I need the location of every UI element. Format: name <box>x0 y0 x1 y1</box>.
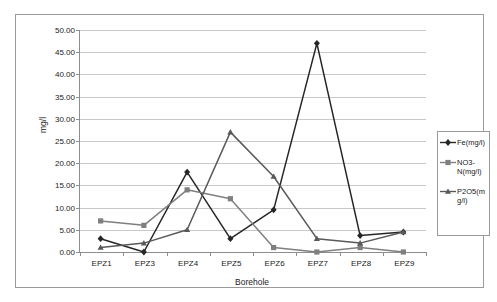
gridline <box>80 74 426 75</box>
y-axis-tick <box>76 230 80 231</box>
x-axis-tick-label: EPZ3 <box>135 259 155 268</box>
gridline <box>80 97 426 98</box>
legend-item[interactable]: Fe(mg/l) <box>440 138 487 147</box>
y-axis-tick <box>76 185 80 186</box>
x-axis-tick <box>340 252 341 256</box>
y-axis-tick <box>76 74 80 75</box>
gridline <box>80 30 426 31</box>
x-axis-tick <box>296 252 297 256</box>
y-axis-tick-label: 30.00 <box>55 114 75 123</box>
y-axis-tick-label: 45.00 <box>55 48 75 57</box>
chart-legend: Fe(mg/l)NO3-N(mg/l)P2O5(mg/l) <box>437 131 490 236</box>
legend-item-label: P2O5(mg/l) <box>457 187 487 205</box>
triangle-marker-icon <box>440 187 456 196</box>
y-axis-tick-label: 15.00 <box>55 181 75 190</box>
chart-frame: mg/l 0.005.0010.0015.0020.0025.0030.0035… <box>15 14 484 288</box>
y-axis-tick-label: 20.00 <box>55 159 75 168</box>
x-axis-tick <box>80 252 81 256</box>
plot-grid: 0.005.0010.0015.0020.0025.0030.0035.0040… <box>79 30 426 253</box>
y-axis-tick-label: 5.00 <box>59 225 75 234</box>
gridline <box>80 119 426 120</box>
x-axis-tick <box>210 252 211 256</box>
x-axis-tick <box>426 252 427 256</box>
x-axis-title: Borehole <box>79 277 425 287</box>
x-axis-tick-label: EPZ6 <box>265 259 285 268</box>
y-axis-tick <box>76 163 80 164</box>
x-axis-tick-label: EPZ8 <box>351 259 371 268</box>
gridline <box>80 163 426 164</box>
x-axis-tick <box>123 252 124 256</box>
y-axis-tick <box>76 97 80 98</box>
y-axis-tick <box>76 52 80 53</box>
y-axis-tick-label: 35.00 <box>55 92 75 101</box>
gridline <box>80 52 426 53</box>
x-axis-tick <box>253 252 254 256</box>
x-axis-tick-label: EPZ9 <box>394 259 414 268</box>
plot-area: 0.005.0010.0015.0020.0025.0030.0035.0040… <box>79 30 425 267</box>
gridline <box>80 230 426 231</box>
legend-item-label: NO3-N(mg/l) <box>457 158 487 176</box>
y-axis-tick <box>76 30 80 31</box>
legend-item-label: Fe(mg/l) <box>457 138 485 147</box>
y-axis-tick <box>76 141 80 142</box>
y-axis-tick <box>76 208 80 209</box>
y-axis-tick-label: 50.00 <box>55 26 75 35</box>
x-axis-tick-label: EPZ7 <box>308 259 328 268</box>
y-axis-title: mg/l <box>38 117 48 133</box>
square-marker-icon <box>440 158 456 167</box>
gridline <box>80 208 426 209</box>
legend-item[interactable]: NO3-N(mg/l) <box>440 158 487 176</box>
y-axis-tick-label: 40.00 <box>55 70 75 79</box>
gridline <box>80 141 426 142</box>
x-axis-tick <box>167 252 168 256</box>
diamond-marker-icon <box>440 138 456 147</box>
x-axis-tick-label: EPZ1 <box>92 259 112 268</box>
y-axis-tick-label: 0.00 <box>59 248 75 257</box>
x-axis-tick <box>383 252 384 256</box>
gridline <box>80 185 426 186</box>
x-axis-tick-label: EPZ4 <box>178 259 198 268</box>
x-axis-tick-label: EPZ5 <box>221 259 241 268</box>
y-axis-tick <box>76 119 80 120</box>
legend-item[interactable]: P2O5(mg/l) <box>440 187 487 205</box>
y-axis-tick-label: 25.00 <box>55 137 75 146</box>
diamond-marker-icon <box>445 139 451 146</box>
square-marker-icon <box>445 160 450 165</box>
y-axis-tick-label: 10.00 <box>55 203 75 212</box>
